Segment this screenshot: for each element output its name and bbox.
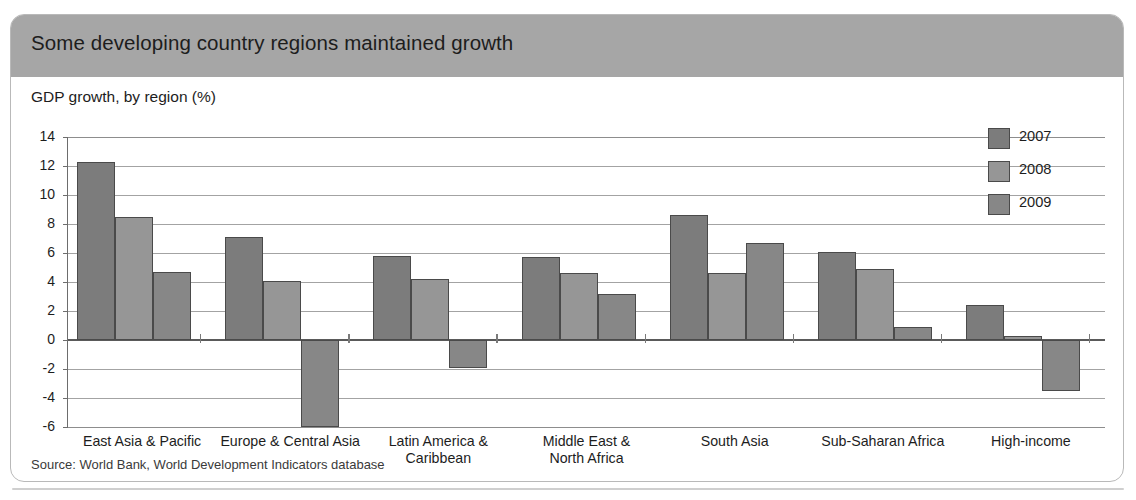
y-axis-tick-label: -2 <box>11 360 55 376</box>
bar-2009-high-income <box>1042 340 1080 391</box>
chart-page: Some developing country regions maintain… <box>0 0 1136 500</box>
x-axis-tick <box>941 334 942 343</box>
y-axis-tick <box>63 166 68 167</box>
bar-2008-sub-saharan-africa <box>856 269 894 340</box>
bar-2009-east-asia-pacific <box>153 272 191 340</box>
bar-2008-middle-east-north-africa <box>560 273 598 340</box>
bar-2009-europe-central-asia <box>301 340 339 427</box>
gridline <box>68 398 1105 399</box>
bar-2009-south-asia <box>746 243 784 340</box>
y-axis-tick-label: 8 <box>11 215 55 231</box>
y-axis-tick-label: 14 <box>11 128 55 144</box>
bar-2008-south-asia <box>708 273 746 340</box>
y-axis-tick <box>63 398 68 399</box>
bar-2008-europe-central-asia <box>263 281 301 340</box>
page-title: Some developing country regions maintain… <box>31 31 513 55</box>
x-axis-label-line: North Africa <box>498 450 674 467</box>
bar-2009-sub-saharan-africa <box>894 327 932 340</box>
y-axis-tick <box>63 427 68 428</box>
gridline <box>68 253 1105 254</box>
y-axis-tick-label: 2 <box>11 302 55 318</box>
y-axis-tick-label: 10 <box>11 186 55 202</box>
bar-2008-high-income <box>1004 336 1042 340</box>
x-axis-tick <box>348 334 349 343</box>
y-axis-tick <box>63 369 68 370</box>
y-axis-tick <box>63 282 68 283</box>
y-axis-tick <box>63 195 68 196</box>
legend-swatch-2009 <box>988 194 1010 215</box>
bar-2007-middle-east-north-africa <box>522 257 560 340</box>
x-axis-category-label: High-income <box>943 433 1119 450</box>
y-axis-tick <box>63 137 68 138</box>
legend-label-2007: 2007 <box>1019 128 1051 144</box>
y-axis-tick <box>63 311 68 312</box>
bar-2009-middle-east-north-africa <box>598 294 636 340</box>
x-axis-label-line: High-income <box>943 433 1119 450</box>
bar-2007-high-income <box>966 305 1004 340</box>
x-axis-tick <box>645 334 646 343</box>
plot-area: 14121086420-2-4-6East Asia & PacificEuro… <box>68 137 1105 427</box>
y-axis-tick-label: 12 <box>11 157 55 173</box>
bar-2008-east-asia-pacific <box>115 217 153 340</box>
x-axis-tick <box>200 334 201 343</box>
y-axis-tick-label: -6 <box>11 418 55 434</box>
gridline <box>68 224 1105 225</box>
gridline <box>68 195 1105 196</box>
bar-2007-east-asia-pacific <box>77 162 115 340</box>
bar-2009-latin-america-caribbean <box>449 340 487 368</box>
legend-label-2009: 2009 <box>1019 194 1051 210</box>
source-note: Source: World Bank, World Development In… <box>31 457 385 472</box>
y-axis-tick-label: -4 <box>11 389 55 405</box>
chart-subtitle: GDP growth, by region (%) <box>31 88 216 106</box>
y-axis-tick-label: 6 <box>11 244 55 260</box>
legend-label-2008: 2008 <box>1019 161 1051 177</box>
y-axis-tick-label: 0 <box>11 331 55 347</box>
gridline <box>68 369 1105 370</box>
bar-2008-latin-america-caribbean <box>411 279 449 340</box>
x-axis-tick <box>793 334 794 343</box>
y-axis-tick <box>63 224 68 225</box>
legend-swatch-2007 <box>988 128 1010 149</box>
y-axis-tick-label: 4 <box>11 273 55 289</box>
legend-swatch-2008 <box>988 161 1010 182</box>
card-shadow <box>12 488 1124 490</box>
bar-2007-latin-america-caribbean <box>373 256 411 340</box>
x-axis-tick <box>496 334 497 343</box>
gridline <box>68 166 1105 167</box>
bar-2007-sub-saharan-africa <box>818 252 856 340</box>
bar-2007-south-asia <box>670 215 708 340</box>
gridline <box>68 427 1105 428</box>
y-axis-tick <box>63 253 68 254</box>
y-axis-tick <box>63 340 68 341</box>
x-axis-tick <box>1089 334 1090 343</box>
bar-2007-europe-central-asia <box>225 237 263 340</box>
gridline <box>68 137 1105 138</box>
